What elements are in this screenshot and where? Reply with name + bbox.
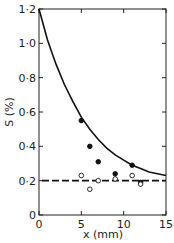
plot-frame: [39, 9, 166, 215]
open-data-point: [96, 178, 101, 183]
y-tick-label: 1·0: [19, 37, 37, 50]
open-data-point: [138, 182, 143, 187]
filled-data-point: [96, 159, 101, 164]
y-tick-label: 1·2: [19, 3, 37, 16]
y-tick-label: 0·8: [19, 72, 37, 85]
x-tick-label: 15: [159, 218, 173, 231]
y-tick-label: 0·6: [19, 106, 37, 119]
x-axis-label: x (mm): [83, 228, 123, 241]
filled-data-point: [130, 163, 135, 168]
open-data-point: [113, 177, 118, 182]
axis-ticks: [39, 9, 166, 215]
open-data-point: [88, 187, 93, 192]
y-axis-label: S (%): [3, 97, 16, 127]
x-tick-label: 0: [36, 218, 43, 231]
y-tick-label: 0·2: [19, 175, 37, 188]
scatter-chart: 00·20·40·60·81·01·2 051015 x (mm) S (%): [0, 0, 174, 243]
y-tick-label: 0·4: [19, 140, 37, 153]
fitted-curve: [39, 9, 166, 176]
y-tick-labels: 00·20·40·60·81·01·2: [19, 3, 37, 222]
filled-data-point: [113, 172, 118, 177]
open-data-point: [79, 173, 84, 178]
open-data-point: [130, 173, 135, 178]
filled-data-point: [88, 144, 93, 149]
filled-data-point: [79, 118, 84, 123]
